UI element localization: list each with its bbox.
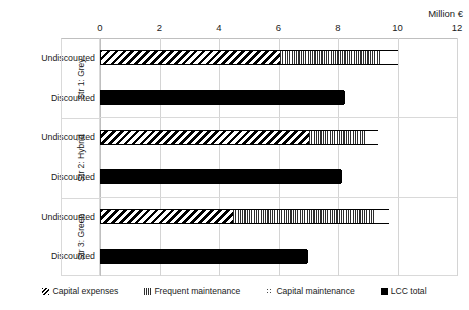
bar-segment-capex — [101, 131, 309, 144]
legend-label: LCC total — [391, 286, 427, 296]
x-tick-label-2: 2 — [157, 22, 162, 33]
x-tick-label-10: 10 — [392, 22, 403, 33]
bar-segment-capmaint — [381, 51, 399, 64]
group-label-2: Str 2: Hybrid — [62, 118, 100, 197]
lcc-stacked-bar-chart: Million € 024681012 UndiscountedDiscount… — [0, 0, 469, 310]
bar-segment-freq — [280, 51, 381, 64]
bar-segment-freq — [233, 210, 374, 223]
x-tick-label-0: 0 — [97, 22, 102, 33]
legend-label: Capital expenses — [52, 286, 118, 296]
group-label-panel: Str 1: GreyStr 2: HybridStr 3: Green — [61, 38, 100, 276]
x-tick-label-8: 8 — [335, 22, 340, 33]
bar-segment-freq — [309, 131, 366, 144]
legend-item-lcc[interactable]: LCC total — [381, 286, 427, 296]
bar-3-undiscounted — [100, 209, 389, 224]
legend-swatch-capmaint-icon — [266, 288, 273, 295]
bar-2-discounted — [100, 169, 341, 184]
bar-segment-capex — [101, 210, 233, 223]
bar-segment-lcc — [101, 91, 345, 104]
gridline-10 — [398, 38, 399, 276]
x-tick-label-6: 6 — [276, 22, 281, 33]
gridline-8 — [338, 38, 339, 276]
bar-segment-lcc — [101, 170, 342, 183]
group-label-text: Str 3: Green — [76, 214, 86, 260]
chart-legend: Capital expensesFrequent maintenanceCapi… — [0, 286, 469, 296]
bar-1-discounted — [100, 90, 344, 105]
x-tick-label-4: 4 — [216, 22, 221, 33]
gridline-6 — [279, 38, 280, 276]
bar-1-undiscounted — [100, 50, 398, 65]
gridline-4 — [219, 38, 220, 276]
legend-item-capmaint[interactable]: Capital maintenance — [266, 286, 354, 296]
legend-item-capex[interactable]: Capital expenses — [42, 286, 118, 296]
group-separator — [100, 197, 457, 198]
bar-segment-capex — [101, 51, 280, 64]
group-label-text: Str 1: Grey — [76, 58, 86, 99]
bar-segment-capmaint — [366, 131, 379, 144]
group-separator — [100, 117, 457, 118]
bar-segment-capmaint — [375, 210, 390, 223]
group-label-3: Str 3: Green — [62, 198, 100, 277]
bar-2-undiscounted — [100, 130, 378, 145]
legend-swatch-lcc-icon — [381, 288, 388, 295]
group-label-1: Str 1: Grey — [62, 39, 100, 118]
axis-unit-label: Million € — [428, 8, 463, 19]
legend-label: Frequent maintenance — [154, 286, 240, 296]
gridline-12 — [457, 38, 458, 276]
group-label-text: Str 2: Hybrid — [76, 134, 86, 181]
legend-swatch-capex-icon — [42, 288, 49, 295]
bar-3-discounted — [100, 249, 307, 264]
legend-swatch-freq-icon — [144, 288, 151, 295]
legend-item-freq[interactable]: Frequent maintenance — [144, 286, 240, 296]
bar-segment-lcc — [101, 250, 308, 263]
gridline-2 — [160, 38, 161, 276]
x-tick-label-12: 12 — [452, 22, 463, 33]
legend-label: Capital maintenance — [276, 286, 354, 296]
gridline-0 — [100, 38, 101, 276]
plot-area — [100, 38, 457, 276]
